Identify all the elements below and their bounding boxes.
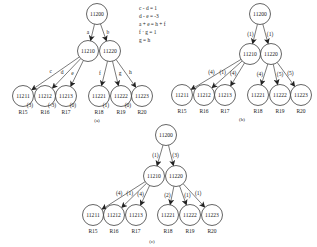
leaf-value: (1) xyxy=(103,102,110,109)
rule-label: R18 xyxy=(94,109,103,115)
node-label: 11223 xyxy=(135,93,149,99)
edge-label: h xyxy=(129,69,132,75)
mid-node-11210: 11210 xyxy=(240,44,261,65)
node-label: 11212 xyxy=(197,92,211,98)
panel-a: abcdefgh11200112101122011211112121121311… xyxy=(13,4,166,124)
rule-label: R15 xyxy=(88,228,97,234)
rule-label: R16 xyxy=(40,109,49,115)
edge-label: b xyxy=(107,29,110,35)
edge-label: (4) xyxy=(116,190,123,197)
node-label: 11212 xyxy=(107,212,121,218)
edge-label: (5) xyxy=(287,70,294,77)
edge-label: d xyxy=(61,69,64,75)
leaf-node-11212: 11212 xyxy=(104,205,125,226)
rule-label: R17 xyxy=(61,109,70,115)
node-label: 11211 xyxy=(86,212,100,218)
leaf-node-11221: 11221 xyxy=(248,85,269,106)
rule-label: R19 xyxy=(275,108,284,114)
constraint-equation: d - e = -3 xyxy=(139,13,159,19)
tree-diagram: abcdefgh11200112101122011211112121121311… xyxy=(0,0,317,247)
edge-root-to-11210 xyxy=(91,24,95,40)
node-label: 11222 xyxy=(114,93,128,99)
mid-node-11210: 11210 xyxy=(78,41,99,62)
rule-label: R18 xyxy=(253,108,262,114)
rule-label: R15 xyxy=(18,109,27,115)
leaf-value: (-3) xyxy=(48,102,56,109)
rule-label: R19 xyxy=(116,109,125,115)
mid-node-11220: 11220 xyxy=(100,41,121,62)
edge-label: (1) xyxy=(267,31,274,38)
leaf-node-11211: 11211 xyxy=(83,205,104,226)
node-label: 11223 xyxy=(205,212,219,218)
constraint-equation: g = h xyxy=(139,37,150,43)
rule-label: R20 xyxy=(207,228,216,234)
edge-label: c xyxy=(50,68,53,74)
rule-label: R16 xyxy=(109,228,118,234)
root-node: 11200 xyxy=(87,4,108,25)
edge-label: (1) xyxy=(152,152,159,159)
leaf-node-11222: 11222 xyxy=(180,205,201,226)
mid-node-11220: 11220 xyxy=(166,166,187,187)
node-label: 11220 xyxy=(264,51,278,57)
panel-c: (1)(3)(4)(1)(4)(2)(1)(1)1120011210112201… xyxy=(83,125,223,245)
mid-node-11220: 11220 xyxy=(261,44,282,65)
node-label: 11213 xyxy=(129,212,143,218)
edge-label: g xyxy=(119,70,122,76)
edge-label: (2) xyxy=(164,192,171,199)
edge-label: (4) xyxy=(257,71,264,78)
panel-caption: (b) xyxy=(239,117,245,122)
leaf-node-11223: 11223 xyxy=(132,86,153,107)
rule-label: R17 xyxy=(220,108,229,114)
node-label: 11210 xyxy=(147,173,161,179)
leaf-node-11212: 11212 xyxy=(194,85,215,106)
root-node: 11200 xyxy=(156,125,177,146)
rule-label: R19 xyxy=(185,228,194,234)
edge-label: (4) xyxy=(230,70,237,77)
leaf-node-11213: 11213 xyxy=(126,205,147,226)
root-node: 11200 xyxy=(250,4,271,25)
edge-label: (5) xyxy=(277,71,284,78)
edge-label: (1) xyxy=(127,190,134,197)
leaf-value: (0) xyxy=(70,102,77,109)
leaf-value: (0) xyxy=(125,102,132,109)
rule-label: R18 xyxy=(163,228,172,234)
node-label: 11200 xyxy=(90,11,104,17)
edge-label: a xyxy=(87,29,90,35)
edge-label: (1) xyxy=(247,31,254,38)
edge-label: (1) xyxy=(184,192,191,199)
node-label: 11221 xyxy=(251,92,265,98)
edge-label: (1) xyxy=(195,190,202,197)
node-label: 11210 xyxy=(243,51,257,57)
edge-to-11222 xyxy=(112,61,118,85)
leaf-value: (3) xyxy=(27,102,34,109)
constraint-equation: a + e = h + f xyxy=(139,21,166,27)
edge-to-11221 xyxy=(170,186,174,204)
node-label: 11213 xyxy=(59,93,73,99)
rule-label: R17 xyxy=(131,228,140,234)
rule-label: R20 xyxy=(137,109,146,115)
node-label: 11220 xyxy=(103,48,117,54)
leaf-node-11223: 11223 xyxy=(202,205,223,226)
panel-caption: (c) xyxy=(149,239,155,244)
node-label: 11212 xyxy=(38,93,52,99)
edge-to-11221 xyxy=(102,61,108,85)
node-label: 11223 xyxy=(294,92,308,98)
edge-label: (4) xyxy=(208,69,215,76)
constraint-equation: c - d = 1 xyxy=(139,5,157,11)
leaf-node-11211: 11211 xyxy=(172,85,193,106)
rule-label: R20 xyxy=(296,108,305,114)
node-label: 11222 xyxy=(273,92,287,98)
node-label: 11220 xyxy=(169,173,183,179)
node-label: 11210 xyxy=(81,48,95,54)
constraint-equation: f · g = 1 xyxy=(139,29,157,35)
leaf-node-11222: 11222 xyxy=(270,85,291,106)
panel-caption: (a) xyxy=(94,118,100,123)
node-label: 11211 xyxy=(16,93,30,99)
rule-label: R15 xyxy=(177,108,186,114)
leaf-node-11221: 11221 xyxy=(158,205,179,226)
node-label: 11200 xyxy=(253,11,267,17)
edge-label: (3) xyxy=(172,152,179,159)
node-label: 11222 xyxy=(183,212,197,218)
node-label: 11200 xyxy=(159,132,173,138)
edge-root-to-11220 xyxy=(100,24,106,41)
